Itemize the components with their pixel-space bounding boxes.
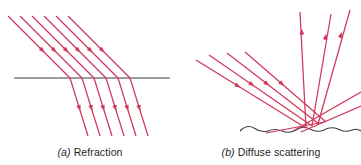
incident-ray [32,16,94,78]
incident-ray [44,16,106,78]
incident-ray [8,16,70,78]
arrowhead-incident [40,48,43,51]
panel-b-diffuse-scattering [196,10,361,133]
scattered-arrowhead-group-b [302,32,341,41]
incident-arrowhead-group-b [235,81,282,86]
arrowhead-refracted [114,105,115,108]
arrowhead-scattered [325,37,326,41]
caption-b-title: Diffuse scattering [238,146,321,158]
arrowhead-incident [76,48,79,51]
refracted-ray-group-a [70,78,148,136]
incident-arrowhead-group-a [40,48,103,51]
incident-ray [196,60,306,128]
arrowhead-scattered [340,35,341,39]
panel-a-refraction [8,16,170,136]
arrowhead-incident [279,81,282,84]
caption-a-title: Refraction [74,146,123,158]
incident-ray-group-b [196,52,326,128]
arrowhead-refracted [102,105,103,108]
arrowhead-refracted [90,105,91,108]
caption-panel-b: (b) Diffuse scattering [181,146,361,158]
incident-ray-group-a [8,16,130,78]
incident-ray [68,16,130,78]
arrowhead-refracted [126,105,127,108]
arrowhead-refracted [138,105,139,108]
ray-diagram-svg [0,0,361,165]
caption-panel-a: (a) Refraction [0,146,180,158]
scattered-ray [312,14,331,126]
optics-figure: (a) Refraction (b) Diffuse scattering [0,0,361,165]
incident-ray [56,16,118,78]
arrowhead-incident [52,48,55,51]
incident-ray [20,16,82,78]
arrowhead-incident [64,48,67,51]
arrowhead-refracted [78,105,79,108]
arrowhead-incident [235,84,238,86]
arrowhead-incident [249,83,252,85]
refracted-arrowhead-group-a [78,105,139,108]
caption-b-letter: (b) [222,146,235,158]
caption-a-letter: (a) [57,146,70,158]
arrowhead-incident [88,48,91,51]
scattered-ray-group-b [266,10,361,133]
arrowhead-incident [100,48,103,51]
